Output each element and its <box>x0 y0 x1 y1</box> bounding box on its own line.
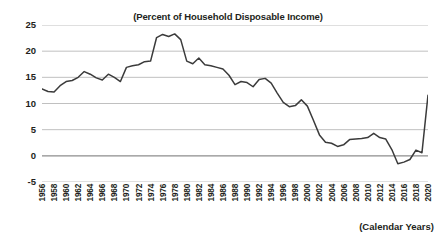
y-tick-label--5: -5 <box>28 177 36 187</box>
x-tick-label-1972: 1972 <box>135 184 144 201</box>
x-tick-label-1956: 1956 <box>38 184 47 201</box>
x-tick-label-1986: 1986 <box>219 184 228 201</box>
x-tick-label-2004: 2004 <box>328 184 337 201</box>
x-tick-label-2016: 2016 <box>400 184 409 201</box>
x-tick-label-1962: 1962 <box>74 184 83 201</box>
chart-title: (Percent of Household Disposable Income) <box>0 11 442 22</box>
y-tick-label-15: 15 <box>25 73 36 83</box>
line-chart-svg <box>42 25 428 182</box>
x-axis-caption: (Calendar Years) <box>359 221 434 232</box>
x-tick-label-1988: 1988 <box>231 184 240 201</box>
plot-area <box>42 25 428 182</box>
x-tick-label-1994: 1994 <box>267 184 276 201</box>
chart-container: (Percent of Household Disposable Income)… <box>0 0 442 243</box>
x-tick-label-1990: 1990 <box>243 184 252 201</box>
x-tick-label-2000: 2000 <box>303 184 312 201</box>
gridlines <box>42 25 428 182</box>
x-tick-label-1976: 1976 <box>159 184 168 201</box>
x-tick-label-1984: 1984 <box>207 184 216 201</box>
x-tick-label-1960: 1960 <box>62 184 71 201</box>
y-tick-label-5: 5 <box>31 125 36 135</box>
y-tick-label-20: 20 <box>25 46 36 56</box>
y-tick-label-10: 10 <box>25 99 36 109</box>
x-tick-label-1992: 1992 <box>255 184 264 201</box>
x-tick-label-2014: 2014 <box>388 184 397 201</box>
y-tick-label-0: 0 <box>31 151 36 161</box>
x-tick-label-1998: 1998 <box>291 184 300 201</box>
x-tick-label-1980: 1980 <box>183 184 192 201</box>
x-tick-label-2012: 2012 <box>376 184 385 201</box>
x-tick-label-1974: 1974 <box>147 184 156 201</box>
x-tick-label-1982: 1982 <box>195 184 204 201</box>
data-line-series-0 <box>42 34 428 164</box>
x-tick-label-2008: 2008 <box>352 184 361 201</box>
y-axis-labels: 2520151050-5 <box>0 25 36 182</box>
x-tick-label-1964: 1964 <box>86 184 95 201</box>
y-tick-label-25: 25 <box>25 20 36 30</box>
x-tick-label-2010: 2010 <box>364 184 373 201</box>
x-tick-label-1968: 1968 <box>110 184 119 201</box>
x-tick-label-1970: 1970 <box>122 184 131 201</box>
x-axis-labels: 1956195819601962196419661968197019721974… <box>42 184 428 218</box>
x-tick-label-2006: 2006 <box>340 184 349 201</box>
x-tick-label-1996: 1996 <box>279 184 288 201</box>
x-tick-label-2018: 2018 <box>412 184 421 201</box>
x-tick-label-1958: 1958 <box>50 184 59 201</box>
x-tick-label-2002: 2002 <box>315 184 324 201</box>
x-tick-label-1966: 1966 <box>98 184 107 201</box>
x-tick-label-1978: 1978 <box>171 184 180 201</box>
x-tick-label-2020: 2020 <box>424 184 433 201</box>
